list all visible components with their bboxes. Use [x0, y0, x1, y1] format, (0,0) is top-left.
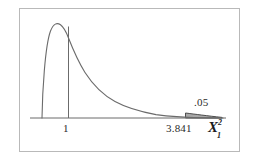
chi-symbol-superscript: 2 — [218, 118, 222, 127]
x-tick-label-mode: 1 — [63, 122, 69, 134]
chi-square-axis-symbol: X21 — [208, 119, 226, 138]
chi-square-figure: 1 3.841 .05 X21 — [0, 0, 255, 165]
x-tick-label-critical-value: 3.841 — [166, 122, 192, 134]
alpha-area-label: .05 — [194, 96, 208, 108]
chi-square-plot — [0, 0, 255, 165]
chi-symbol-subscript: 1 — [217, 131, 221, 140]
